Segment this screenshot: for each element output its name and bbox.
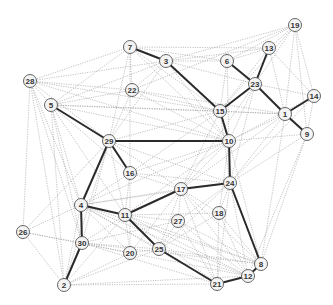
thin-edge-16-17 <box>130 173 181 189</box>
thin-edge-29-17 <box>109 141 181 189</box>
node-26: 26 <box>17 226 30 239</box>
thin-edge-28-3 <box>30 61 166 81</box>
thin-edge-5-11 <box>51 105 125 215</box>
node-9: 9 <box>301 128 314 141</box>
thin-edge-13-1 <box>269 48 285 114</box>
thin-edge-6-19 <box>227 25 295 61</box>
thin-edge-7-6 <box>130 47 227 61</box>
network-graph: 1234567891011121314151617181920212223242… <box>0 0 333 305</box>
thin-edge-22-15 <box>132 90 220 111</box>
thin-edge-11-12 <box>125 215 248 276</box>
node-24: 24 <box>224 177 237 190</box>
thin-edge-24-12 <box>230 183 248 276</box>
thin-edge-30-21 <box>82 243 217 284</box>
thin-edge-1-24 <box>230 114 285 183</box>
thin-edge-7-5 <box>51 47 130 105</box>
thin-edge-10-4 <box>81 141 229 205</box>
thin-edge-25-8 <box>159 249 261 264</box>
thin-edge-28-22 <box>30 81 132 90</box>
thin-edge-10-16 <box>130 141 229 173</box>
node-label: 4 <box>79 201 84 210</box>
thin-edge-16-24 <box>130 173 230 183</box>
node-13: 13 <box>263 42 276 55</box>
node-29: 29 <box>103 135 116 148</box>
thin-edge-18-25 <box>159 213 219 249</box>
node-3: 3 <box>160 55 173 68</box>
thin-edge-25-2 <box>64 249 159 285</box>
thin-edge-27-8 <box>178 221 261 264</box>
node-8: 8 <box>255 258 268 271</box>
node-label: 13 <box>265 44 274 53</box>
node-label: 26 <box>19 228 28 237</box>
node-label: 21 <box>213 280 222 289</box>
node-label: 14 <box>310 92 319 101</box>
thin-edge-29-2 <box>64 141 109 285</box>
node-label: 27 <box>174 217 183 226</box>
thin-edge-28-29 <box>30 81 109 141</box>
thin-edge-22-29 <box>109 90 132 141</box>
node-7: 7 <box>124 41 137 54</box>
node-label: 29 <box>105 137 114 146</box>
thin-edge-11-21 <box>125 215 217 284</box>
thick-edge-8-24 <box>230 183 261 264</box>
thin-edge-7-13 <box>130 47 269 48</box>
node-label: 12 <box>244 272 253 281</box>
node-4: 4 <box>75 199 88 212</box>
thin-edge-22-5 <box>51 90 132 105</box>
node-2: 2 <box>58 279 71 292</box>
node-17: 17 <box>175 183 188 196</box>
node-label: 1 <box>283 110 288 119</box>
thin-edge-4-26 <box>23 205 81 232</box>
thin-edge-28-7 <box>30 47 130 81</box>
node-label: 17 <box>177 185 186 194</box>
thin-edge-15-29 <box>109 111 220 141</box>
node-14: 14 <box>308 90 321 103</box>
node-label: 8 <box>259 260 264 269</box>
thin-edge-13-14 <box>269 48 314 96</box>
thin-edge-5-16 <box>51 105 130 173</box>
thin-edge-22-1 <box>132 90 285 114</box>
thin-edge-20-12 <box>130 253 248 276</box>
thin-edge-3-10 <box>166 61 229 141</box>
node-28: 28 <box>24 75 37 88</box>
thin-edge-19-15 <box>220 25 295 111</box>
node-label: 23 <box>251 80 260 89</box>
thin-edge-23-24 <box>230 84 255 183</box>
node-21: 21 <box>211 278 224 291</box>
thick-edges-layer <box>51 47 314 285</box>
node-6: 6 <box>221 55 234 68</box>
node-label: 20 <box>126 249 135 258</box>
node-label: 10 <box>225 137 234 146</box>
node-11: 11 <box>119 209 132 222</box>
node-27: 27 <box>172 215 185 228</box>
node-label: 9 <box>305 130 310 139</box>
thin-edge-3-5 <box>51 61 166 105</box>
node-label: 18 <box>215 209 224 218</box>
thick-edge-25-21 <box>159 249 217 284</box>
node-12: 12 <box>242 270 255 283</box>
node-label: 16 <box>126 169 135 178</box>
thin-edge-9-24 <box>230 134 307 183</box>
node-19: 19 <box>289 19 302 32</box>
node-15: 15 <box>214 105 227 118</box>
node-1: 1 <box>279 108 292 121</box>
thin-edge-5-1 <box>51 105 285 114</box>
node-label: 25 <box>155 245 164 254</box>
node-label: 22 <box>128 86 137 95</box>
node-label: 30 <box>78 239 87 248</box>
node-label: 24 <box>226 179 235 188</box>
node-label: 19 <box>291 21 300 30</box>
thin-edge-11-27 <box>125 215 178 221</box>
thin-edge-17-21 <box>181 189 217 284</box>
thin-edge-25-12 <box>159 249 248 276</box>
thick-edge-17-24 <box>181 183 230 189</box>
node-label: 15 <box>216 107 225 116</box>
thick-edge-11-17 <box>125 189 181 215</box>
node-16: 16 <box>124 167 137 180</box>
thin-edge-26-2 <box>23 232 64 285</box>
thin-edge-2-21 <box>64 284 217 285</box>
thick-edge-29-4 <box>81 141 109 205</box>
node-label: 11 <box>121 211 130 220</box>
node-label: 7 <box>128 43 133 52</box>
thin-edge-10-11 <box>125 141 229 215</box>
